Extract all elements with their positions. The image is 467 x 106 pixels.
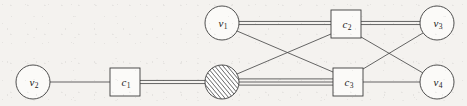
edge-v1-c2 [239,21,331,24]
graph-canvas: v1v2v3v4c1c2c3 [0,0,467,106]
edge-hatched-c2 [237,34,331,74]
edge-c2-v3 [361,21,420,24]
edge-v1-c3 [237,31,333,72]
edge-c1-hatched [140,80,205,83]
edge-c2-v4 [361,37,423,73]
graph-figure: v1v2v3v4c1c2c3 [0,0,467,106]
edge-hatched-c3 [239,79,333,85]
hatched-node [205,65,239,99]
edge-c3-v3 [363,33,423,69]
